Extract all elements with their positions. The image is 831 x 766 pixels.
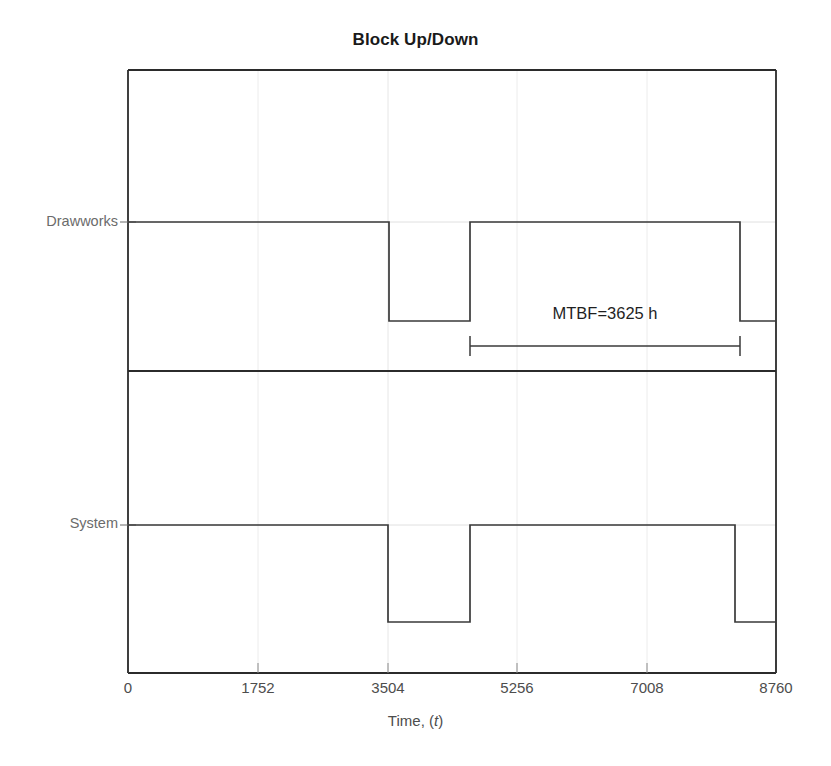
- chart-container: Block Up/Down: [0, 0, 831, 766]
- x-tick-label-8760: 8760: [736, 679, 816, 696]
- x-tick-label-5256: 5256: [467, 679, 567, 696]
- x-axis-title-end: ): [438, 712, 443, 729]
- gridlines-vertical-top: [258, 70, 647, 371]
- x-tick-label-1752: 1752: [208, 679, 308, 696]
- gridlines-horizontal: [128, 222, 776, 525]
- x-tick-label-0: 0: [98, 679, 158, 696]
- gridlines-vertical-bottom: [258, 371, 647, 673]
- y-axis-label-drawworks: Drawworks: [0, 213, 118, 229]
- x-tick-marks: [128, 660, 776, 673]
- x-axis-title: Time, (t): [0, 712, 831, 729]
- chart-plot-svg: [0, 0, 831, 766]
- x-tick-label-7008: 7008: [597, 679, 697, 696]
- mtbf-measure-bar: [470, 336, 740, 356]
- x-axis-title-main: Time, (: [388, 712, 434, 729]
- mtbf-annotation-label: MTBF=3625 h: [470, 304, 740, 323]
- step-curve-system: [128, 525, 776, 622]
- y-axis-label-system: System: [0, 515, 118, 531]
- x-tick-label-3504: 3504: [338, 679, 438, 696]
